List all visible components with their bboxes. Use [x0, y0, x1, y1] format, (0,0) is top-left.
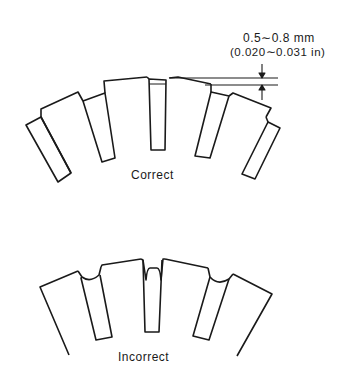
- dimension-imperial-label: (0.020∼0.031 in): [230, 45, 325, 59]
- incorrect-label: Incorrect: [118, 350, 169, 364]
- correct-commutator: [26, 77, 280, 182]
- correct-label: Correct: [131, 168, 174, 182]
- dimension-metric-label: 0.5∼0.8 mm: [243, 31, 315, 45]
- incorrect-commutator: [40, 259, 272, 356]
